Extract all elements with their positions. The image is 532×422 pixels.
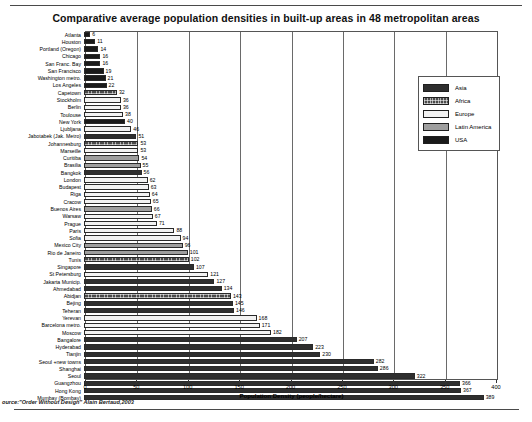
value-label: 40 xyxy=(127,118,133,124)
bar-asia xyxy=(84,264,194,269)
bar-row: Moscow182 xyxy=(0,329,532,336)
bar-track: 88 xyxy=(83,227,532,234)
category-label: Seoul +new towns xyxy=(0,359,83,365)
value-label: 322 xyxy=(417,373,426,379)
bar-asia xyxy=(84,170,142,175)
bar-row: Houston11 xyxy=(0,38,532,45)
value-label: 16 xyxy=(102,53,108,59)
bar-usa xyxy=(84,39,95,44)
value-label: 46 xyxy=(133,126,139,132)
bar-track: 63 xyxy=(83,184,532,191)
legend-label: Africa xyxy=(455,97,470,105)
category-label: Portland (Oregon) xyxy=(0,46,83,52)
bar-row: Tianjin230 xyxy=(0,351,532,358)
category-label: Sofia xyxy=(0,235,83,241)
legend-item-europe: Europe xyxy=(423,107,495,120)
category-label: Mexico City xyxy=(0,242,83,248)
bar-latin-america xyxy=(84,243,183,248)
value-label: 53 xyxy=(140,140,146,146)
bar-track: 168 xyxy=(83,314,532,321)
category-label: Teheran xyxy=(0,308,83,314)
value-label: 102 xyxy=(191,256,200,262)
legend-swatch-usa xyxy=(423,136,449,144)
bar-europe xyxy=(84,272,208,277)
bar-usa xyxy=(84,68,104,73)
category-label: Riga xyxy=(0,191,83,197)
legend-item-africa: Africa xyxy=(423,94,495,107)
value-label: 51 xyxy=(138,133,144,139)
bar-track: 223 xyxy=(83,343,532,350)
value-label: 145 xyxy=(235,300,244,306)
category-label: Prague xyxy=(0,221,83,227)
bar-track: 121 xyxy=(83,271,532,278)
x-tick-mark xyxy=(188,380,189,383)
bar-track: 282 xyxy=(83,358,532,365)
category-label: Toulouse xyxy=(0,112,83,118)
value-label: 96 xyxy=(185,242,191,248)
category-label: Hong Kong xyxy=(0,388,83,394)
value-label: 65 xyxy=(153,198,159,204)
category-label: Paris xyxy=(0,228,83,234)
bar-africa xyxy=(84,141,138,146)
value-label: 282 xyxy=(376,358,385,364)
chart-legend: AsiaAfricaEuropeLatin AmericaUSA xyxy=(418,76,500,151)
bar-europe xyxy=(84,214,153,219)
bar-row: Shanghai286 xyxy=(0,365,532,372)
value-label: 207 xyxy=(299,336,308,342)
value-label: 53 xyxy=(140,147,146,153)
bar-track: 16 xyxy=(83,60,532,67)
category-label: Rio de Janeiro xyxy=(0,250,83,256)
category-label: New York xyxy=(0,119,83,125)
chart-page: Comparative average population densities… xyxy=(0,0,532,422)
bar-usa xyxy=(84,61,100,66)
category-label: San Franc. Bay xyxy=(0,61,83,67)
value-label: 66 xyxy=(154,206,160,212)
category-label: Shanghai xyxy=(0,366,83,372)
x-tick-label: 50 xyxy=(133,384,139,390)
value-label: 36 xyxy=(123,104,129,110)
value-label: 21 xyxy=(108,75,114,81)
bar-europe xyxy=(84,228,174,233)
value-label: 22 xyxy=(109,82,115,88)
legend-label: Latin America xyxy=(455,123,491,131)
bar-track: 182 xyxy=(83,329,532,336)
legend-item-latin: Latin America xyxy=(423,120,495,133)
bar-track: 286 xyxy=(83,365,532,372)
bar-row: Bejing145 xyxy=(0,300,532,307)
bar-latin-america xyxy=(84,155,139,160)
category-label: Abidjan xyxy=(0,293,83,299)
bar-row: Budapest63 xyxy=(0,184,532,191)
category-label: Bejing xyxy=(0,300,83,306)
x-tick-mark xyxy=(496,380,497,383)
x-tick-label: 250 xyxy=(337,384,346,390)
bar-track: 127 xyxy=(83,278,532,285)
bar-row: Portland (Oregon)14 xyxy=(0,46,532,53)
category-label: Capetown xyxy=(0,90,83,96)
bar-row: Rio de Janeiro101 xyxy=(0,249,532,256)
bar-row: Ahmedabad134 xyxy=(0,285,532,292)
category-label: San Francisco xyxy=(0,68,83,74)
bar-row: Sofia94 xyxy=(0,234,532,241)
bar-usa xyxy=(84,32,90,37)
value-label: 63 xyxy=(151,184,157,190)
value-label: 16 xyxy=(102,60,108,66)
legend-label: Asia xyxy=(455,84,467,92)
value-label: 143 xyxy=(233,293,242,299)
value-label: 71 xyxy=(159,220,165,226)
bar-row: Yerevan168 xyxy=(0,314,532,321)
category-label: Atlanta xyxy=(0,32,83,38)
bar-track: 65 xyxy=(83,198,532,205)
x-tick-label: 100 xyxy=(183,384,192,390)
value-label: 94 xyxy=(183,235,189,241)
x-tick-mark xyxy=(342,380,343,383)
bar-track: 56 xyxy=(83,169,532,176)
bar-europe xyxy=(84,330,271,335)
bar-asia xyxy=(84,279,214,284)
bar-europe xyxy=(84,199,151,204)
bar-europe xyxy=(84,192,150,197)
chart-title: Comparative average population densities… xyxy=(0,12,532,24)
bar-track: 96 xyxy=(83,242,532,249)
bar-europe xyxy=(84,221,157,226)
bar-row: San Francisco19 xyxy=(0,67,532,74)
category-label: Seoul xyxy=(0,373,83,379)
